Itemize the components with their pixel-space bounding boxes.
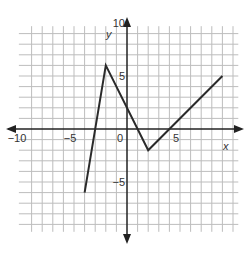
y-axis-down-arrow-icon (123, 234, 131, 244)
x-tick-label: 0 (117, 132, 123, 144)
x-tick-label: −5 (64, 132, 77, 144)
y-tick-label: 5 (119, 70, 125, 82)
y-tick-label: −5 (112, 176, 125, 188)
y-tick-label: 10 (113, 17, 125, 29)
x-axis-label: x (222, 140, 229, 152)
tick-labels: −10−505105−5 (8, 17, 179, 188)
x-tick-label: −10 (8, 132, 27, 144)
coordinate-plane: −10−505105−5 x y (0, 0, 252, 255)
x-axis-right-arrow-icon (234, 125, 244, 133)
x-tick-label: 5 (173, 132, 179, 144)
